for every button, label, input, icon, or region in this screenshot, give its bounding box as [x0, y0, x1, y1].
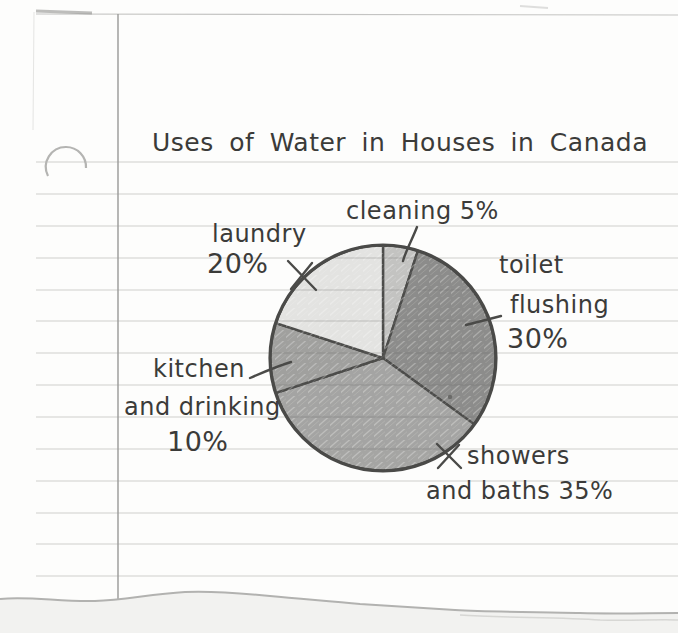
- label-showers-line2: and baths 35%: [426, 478, 613, 504]
- label-kitchen-line2: and drinking: [124, 394, 281, 420]
- notebook-page: Uses of Water in Houses in Canada cleani…: [0, 0, 678, 633]
- label-toilet-line2: flushing: [510, 292, 609, 318]
- chart-title: Uses of Water in Houses in Canada: [152, 130, 556, 156]
- label-showers-line1: showers: [467, 443, 570, 469]
- label-kitchen-line1: kitchen: [153, 356, 245, 382]
- pencil-dot: [448, 395, 452, 399]
- label-toilet-line1: toilet: [499, 252, 564, 278]
- label-kitchen-pct: 10%: [167, 429, 229, 455]
- label-laundry-line1: laundry: [212, 221, 307, 247]
- label-laundry-pct: 20%: [207, 251, 269, 277]
- label-cleaning: cleaning 5%: [346, 198, 499, 224]
- label-toilet-pct: 30%: [507, 326, 569, 352]
